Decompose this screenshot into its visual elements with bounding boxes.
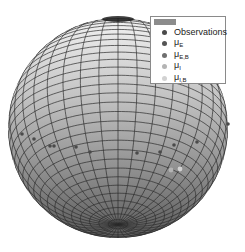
legend-surface-swatch <box>154 19 176 25</box>
data-point <box>32 137 36 141</box>
data-point <box>169 168 174 173</box>
sphere-pole <box>102 16 134 22</box>
legend-marker-icon <box>162 76 167 81</box>
data-point <box>158 150 162 154</box>
data-point <box>48 144 52 148</box>
data-point <box>195 140 199 144</box>
legend: ObservationsμEμE,BμIμI,B <box>150 16 226 84</box>
data-point <box>20 132 24 136</box>
legend-label: Observations <box>174 27 227 37</box>
data-point <box>226 122 230 126</box>
data-point <box>74 145 78 149</box>
legend-marker-icon <box>162 41 167 46</box>
data-point <box>178 167 183 172</box>
data-point <box>172 143 176 147</box>
legend-marker-icon <box>162 64 167 69</box>
legend-item: Observations <box>151 26 227 38</box>
legend-marker-icon <box>162 53 167 58</box>
legend-item: μI,B <box>151 72 187 84</box>
data-point <box>88 150 92 154</box>
legend-label: μI,B <box>174 72 187 85</box>
data-point <box>135 151 139 155</box>
data-point <box>52 144 56 148</box>
legend-marker-icon <box>162 30 167 35</box>
legend-item: μE,B <box>151 49 189 61</box>
